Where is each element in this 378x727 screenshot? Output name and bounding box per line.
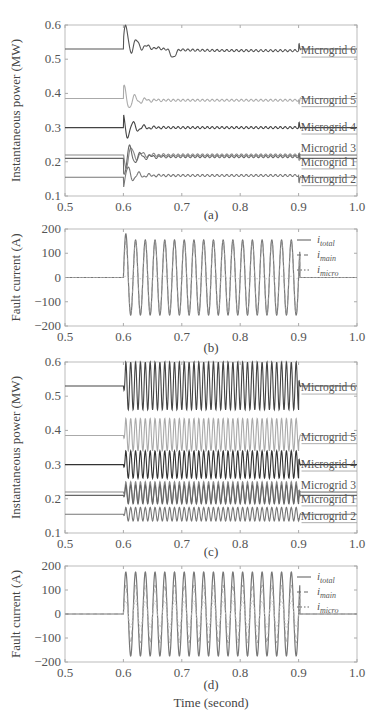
y-tick-label: 0.2 xyxy=(45,154,61,169)
y-tick-label: 0.2 xyxy=(45,491,61,506)
x-tick-label: 0.6 xyxy=(115,199,132,214)
panel-caption: (a) xyxy=(204,207,218,222)
panel-caption: (b) xyxy=(203,340,218,355)
legend-label: imain xyxy=(317,248,336,263)
series-label: Microgrid 3 xyxy=(301,142,357,155)
series-label: Microgrid 2 xyxy=(301,510,357,523)
x-tick-label: 0.7 xyxy=(174,665,191,680)
x-tick-label: 1.0 xyxy=(349,329,365,344)
x-tick-label: 0.6 xyxy=(115,536,132,551)
legend-label: imain xyxy=(317,585,336,600)
x-tick-label: 0.7 xyxy=(174,536,191,551)
legend-label: imicro xyxy=(317,600,338,615)
x-tick-label: 0.7 xyxy=(174,199,191,214)
y-axis-label: Instantaneous power (MW) xyxy=(8,376,23,519)
series-label: Microgrid 5 xyxy=(301,431,357,444)
x-tick-label: 1.0 xyxy=(349,536,365,551)
series-label: Microgrid 4 xyxy=(301,458,357,471)
x-tick-label: 0.9 xyxy=(290,665,306,680)
series-label: Microgrid 6 xyxy=(301,44,357,57)
y-tick-label: 0 xyxy=(55,270,62,285)
y-tick-label: 0.3 xyxy=(45,457,61,472)
y-tick-label: 0.3 xyxy=(45,120,61,135)
y-tick-label: 0.1 xyxy=(45,525,61,540)
series-label: Microgrid 4 xyxy=(301,121,357,134)
legend-subscript: main xyxy=(320,254,336,263)
legend-label: itotal xyxy=(317,570,336,585)
x-tick-label: 0.7 xyxy=(174,329,191,344)
series-label: Microgrid 1 xyxy=(301,156,357,169)
series-label: Microgrid 1 xyxy=(301,493,357,506)
panel-d: 0.50.60.70.80.91.0−200−1000100200Fault c… xyxy=(8,558,365,710)
y-tick-label: 0 xyxy=(55,606,62,621)
panel-caption: (d) xyxy=(203,677,218,692)
panel-a: 0.50.60.70.80.91.00.10.20.30.40.50.6Inst… xyxy=(8,17,365,222)
y-axis-label: Fault current (A) xyxy=(8,233,23,321)
y-tick-label: 0.5 xyxy=(45,51,61,66)
x-tick-label: 1.0 xyxy=(349,665,365,680)
series-line-i-total xyxy=(65,234,357,315)
legend-label: itotal xyxy=(317,233,336,248)
x-tick-label: 0.9 xyxy=(290,536,306,551)
y-tick-label: 200 xyxy=(42,558,62,573)
y-tick-label: 0.6 xyxy=(45,17,62,32)
legend-subscript: total xyxy=(320,576,335,585)
x-tick-label: 0.8 xyxy=(232,665,248,680)
x-axis-label: Time (second) xyxy=(174,695,249,710)
y-axis-label: Instantaneous power (MW) xyxy=(8,39,23,182)
legend-label: imicro xyxy=(317,263,338,278)
legend-subscript: micro xyxy=(320,606,338,615)
y-tick-label: −100 xyxy=(34,630,61,645)
series-label: Microgrid 2 xyxy=(301,173,357,186)
x-tick-label: 0.9 xyxy=(290,329,306,344)
y-axis-label: Fault current (A) xyxy=(8,570,23,658)
y-tick-label: −200 xyxy=(34,654,61,669)
panel-b: 0.50.60.70.80.91.0−200−1000100200Fault c… xyxy=(8,221,365,355)
series-label: Microgrid 5 xyxy=(301,94,357,107)
panel-caption: (c) xyxy=(204,544,218,559)
x-tick-label: 0.9 xyxy=(290,199,306,214)
figure: 0.50.60.70.80.91.00.10.20.30.40.50.6Inst… xyxy=(0,0,378,727)
y-tick-label: −200 xyxy=(34,318,61,333)
y-tick-label: 0.6 xyxy=(45,354,62,369)
y-tick-label: 0.4 xyxy=(45,422,62,437)
y-tick-label: 0.5 xyxy=(45,388,61,403)
series-label: Microgrid 3 xyxy=(301,479,357,492)
series-label: Microgrid 6 xyxy=(301,381,357,394)
x-tick-label: 0.8 xyxy=(232,536,248,551)
y-tick-label: 0.4 xyxy=(45,85,62,100)
y-tick-label: 100 xyxy=(42,582,62,597)
y-tick-label: −100 xyxy=(34,294,61,309)
x-tick-label: 0.8 xyxy=(232,199,248,214)
y-tick-label: 100 xyxy=(42,245,62,260)
x-tick-label: 0.6 xyxy=(115,329,132,344)
legend-subscript: micro xyxy=(320,269,338,278)
y-tick-label: 0.1 xyxy=(45,188,61,203)
legend-subscript: main xyxy=(320,591,336,600)
x-tick-label: 0.6 xyxy=(115,665,132,680)
x-tick-label: 1.0 xyxy=(349,199,365,214)
panel-c: 0.50.60.70.80.91.00.10.20.30.40.50.6Inst… xyxy=(8,354,365,559)
x-tick-label: 0.8 xyxy=(232,329,248,344)
y-tick-label: 200 xyxy=(42,221,62,236)
legend-subscript: total xyxy=(320,239,335,248)
